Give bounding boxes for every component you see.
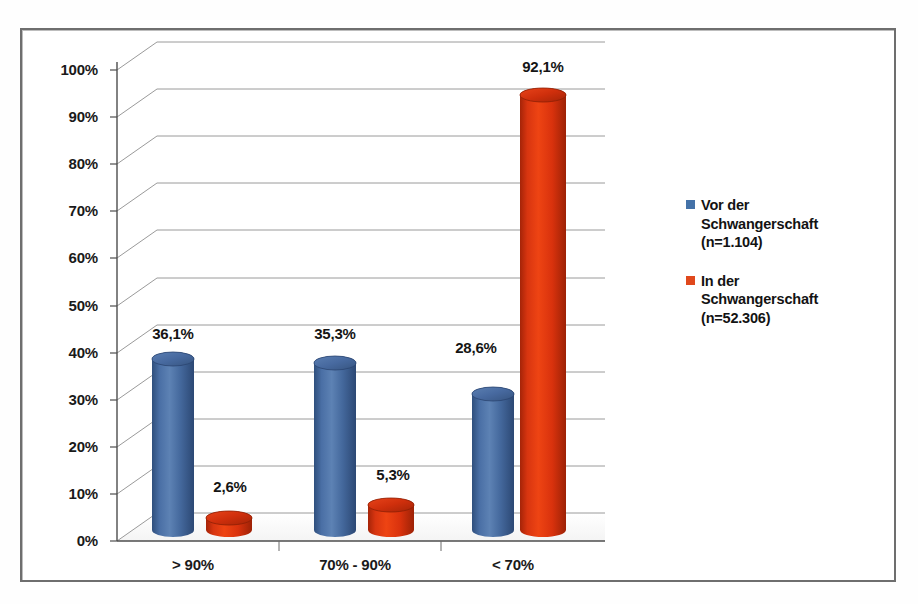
bar-blue-group-1 [152,352,194,537]
bar-blue-group-3 [472,387,514,537]
data-label-red-1: 2,6% [180,478,280,495]
bar-red-group-3 [520,88,566,537]
data-label-red-2: 5,3% [343,466,443,483]
legend-label-2-line3: (n=52.306) [701,309,818,328]
legend-label-2-line1: In der [701,272,818,291]
chart-screenshot: 100% 90% 80% 70% 60% 50% 40% 30% 20% 10%… [0,0,918,604]
x-tick-label-1: > 90% [138,556,248,573]
legend-label-2: In der Schwangerschaft (n=52.306) [701,272,818,328]
legend-label-1-line1: Vor der [701,196,818,215]
data-label-red-3: 92,1% [493,58,593,75]
x-tick-label-2: 70% - 90% [290,556,420,573]
bar-blue-group-2 [314,356,356,537]
y-tick-label-60: 60% [34,249,98,266]
y-tick-label-40: 40% [34,344,98,361]
y-axis-ticks [110,70,117,541]
legend-label-1-line2: Schwangerschaft [701,215,818,234]
legend-label-1: Vor der Schwangerschaft (n=1.104) [701,196,818,252]
legend-item-vor-der-schwangerschaft[interactable]: Vor der Schwangerschaft (n=1.104) [686,196,876,252]
x-tick-label-3: < 70% [458,556,568,573]
legend-label-2-line2: Schwangerschaft [701,290,818,309]
y-tick-label-20: 20% [34,438,98,455]
data-label-blue-3: 28,6% [426,339,526,356]
legend-swatch-red [686,276,695,285]
data-label-blue-1: 36,1% [123,325,223,342]
y-tick-label-10: 10% [34,485,98,502]
data-label-blue-2: 35,3% [285,325,385,342]
y-tick-label-70: 70% [34,202,98,219]
bar-red-group-2 [368,498,414,537]
y-tick-label-30: 30% [34,391,98,408]
y-tick-label-50: 50% [34,297,98,314]
y-tick-label-0: 0% [34,532,98,549]
y-tick-label-80: 80% [34,155,98,172]
y-tick-label-100: 100% [34,61,98,78]
y-tick-label-90: 90% [34,108,98,125]
x-axis-ticks [279,541,441,551]
legend-swatch-blue [686,200,695,209]
chart-legend: Vor der Schwangerschaft (n=1.104) In der… [686,196,876,347]
legend-item-in-der-schwangerschaft[interactable]: In der Schwangerschaft (n=52.306) [686,272,876,328]
bar-red-group-1 [206,511,252,537]
legend-label-1-line3: (n=1.104) [701,233,818,252]
